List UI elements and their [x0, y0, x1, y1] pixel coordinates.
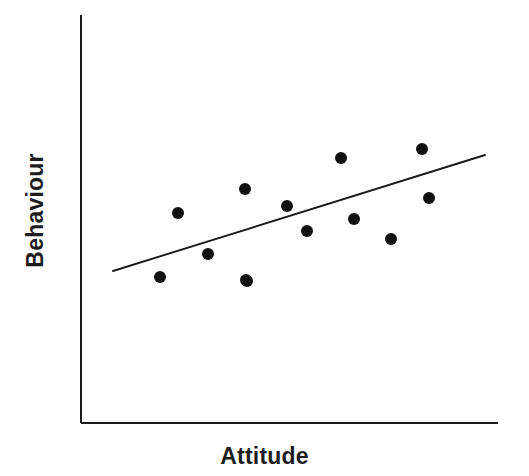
- data-point: [240, 274, 252, 286]
- data-point: [172, 207, 184, 219]
- data-point: [239, 183, 251, 195]
- plot-canvas: [0, 0, 529, 476]
- scatter-plot-figure: Behaviour Attitude: [0, 0, 529, 476]
- y-axis-label-container: Behaviour: [0, 0, 70, 476]
- trend-line-group: [113, 155, 485, 271]
- x-axis-label: Attitude: [0, 443, 529, 470]
- y-axis-label: Behaviour: [22, 153, 49, 267]
- data-point: [385, 233, 397, 245]
- data-point: [348, 213, 360, 225]
- data-point: [154, 271, 166, 283]
- regression-trend-line: [113, 155, 485, 271]
- data-point: [301, 225, 313, 237]
- axes-group: [81, 15, 498, 423]
- data-point: [281, 200, 293, 212]
- data-point: [335, 152, 347, 164]
- data-point: [416, 143, 428, 155]
- data-point: [202, 248, 214, 260]
- data-point: [423, 192, 435, 204]
